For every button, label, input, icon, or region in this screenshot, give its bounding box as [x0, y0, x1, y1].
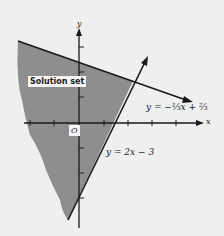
line-1-equation: y = −⅓x + ⅔ — [146, 102, 208, 112]
solution-set-label: Solution set — [28, 76, 86, 87]
origin-label: O — [69, 125, 80, 136]
y-axis-label: y — [77, 19, 82, 28]
x-axis-arrow — [196, 120, 204, 126]
line-2-arrow — [141, 56, 148, 66]
line-2-equation: y = 2x − 3 — [106, 147, 154, 157]
x-axis-label: x — [206, 117, 211, 126]
y-axis-arrow — [76, 28, 82, 36]
graph — [0, 0, 224, 236]
